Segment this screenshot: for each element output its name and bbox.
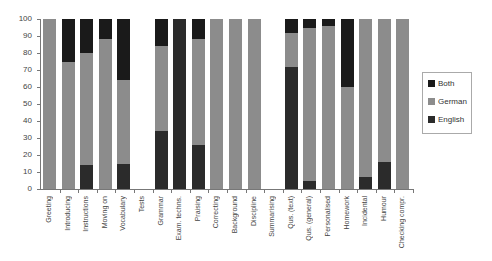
bar — [378, 19, 391, 189]
bar — [117, 19, 130, 189]
x-tick-label: Greeting — [45, 196, 52, 223]
x-tick-label: Tests — [138, 196, 145, 212]
bar-segment-both — [322, 19, 335, 26]
y-tick-label: 100 — [6, 14, 32, 23]
y-tick-label: 20 — [6, 150, 32, 159]
bar-segment-both — [341, 19, 354, 87]
bar — [210, 19, 223, 189]
bar-segment-english — [285, 67, 298, 189]
bar — [62, 19, 75, 189]
bar-segment-both — [303, 19, 316, 28]
x-tick-label: Checking compr. — [398, 196, 405, 248]
x-tick-label: Summarising — [268, 196, 275, 237]
x-tick-label: Vocabulary — [119, 196, 126, 231]
bar-segment-english — [117, 164, 130, 190]
x-tick — [208, 189, 209, 193]
x-tick-label: Exam. techns. — [175, 196, 182, 240]
x-tick-label: Instructions — [82, 196, 89, 232]
y-tick-label: 10 — [6, 167, 32, 176]
bar-segment-german — [210, 19, 223, 189]
bar-segment-english — [192, 145, 205, 189]
bar-segment-german — [155, 46, 168, 131]
bar — [192, 19, 205, 189]
x-tick — [97, 189, 98, 193]
x-tick-label: Background — [231, 196, 238, 233]
y-tick-label: 50 — [6, 99, 32, 108]
x-tick — [320, 189, 321, 193]
bar — [359, 19, 372, 189]
bar — [136, 19, 149, 189]
bar-segment-english — [303, 181, 316, 190]
bar — [43, 19, 56, 189]
bar-segment-german — [43, 19, 56, 189]
x-tick — [283, 189, 284, 193]
bar-segment-german — [322, 26, 335, 189]
bar — [99, 19, 112, 189]
legend-item-both: Both — [428, 79, 454, 88]
bar-segment-english — [80, 165, 93, 189]
bar-segment-english — [173, 19, 186, 189]
bar — [173, 19, 186, 189]
bar — [303, 19, 316, 189]
x-tick — [376, 189, 377, 193]
bar-segment-german — [396, 19, 409, 189]
bar-segment-german — [117, 80, 130, 163]
bar-segment-german — [341, 87, 354, 189]
bar — [80, 19, 93, 189]
bar — [322, 19, 335, 189]
x-tick — [60, 189, 61, 193]
bar-segment-english — [378, 162, 391, 189]
bar — [285, 19, 298, 189]
x-tick-label: Qus. (text) — [287, 196, 294, 229]
legend-label-german: German — [438, 97, 467, 106]
x-tick — [190, 189, 191, 193]
legend: Both German English — [422, 72, 472, 134]
x-tick-label: Correcting — [212, 196, 219, 228]
bar — [396, 19, 409, 189]
x-tick — [246, 189, 247, 193]
y-tick-label: 80 — [6, 48, 32, 57]
legend-swatch-english — [428, 116, 435, 123]
bar-segment-german — [378, 19, 391, 162]
x-tick — [413, 189, 414, 193]
y-tick-label: 30 — [6, 133, 32, 142]
y-tick-label: 70 — [6, 65, 32, 74]
bar-segment-german — [229, 19, 242, 189]
x-tick — [153, 189, 154, 193]
bar-segment-both — [99, 19, 112, 39]
bar-segment-both — [62, 19, 75, 62]
y-tick-label: 0 — [6, 184, 32, 193]
x-tick-label: Humour — [380, 196, 387, 221]
bar-segment-both — [192, 19, 205, 39]
x-tick-label: Praising — [194, 196, 201, 221]
bar-segment-both — [285, 19, 298, 33]
bar — [266, 19, 279, 189]
x-tick — [171, 189, 172, 193]
bar — [229, 19, 242, 189]
x-tick — [394, 189, 395, 193]
x-tick — [115, 189, 116, 193]
x-tick — [264, 189, 265, 193]
bar-segment-english — [155, 131, 168, 189]
bar-segment-german — [303, 28, 316, 181]
bar — [155, 19, 168, 189]
y-tick-label: 90 — [6, 31, 32, 40]
y-tick-label: 40 — [6, 116, 32, 125]
legend-label-english: English — [438, 115, 464, 124]
x-tick — [227, 189, 228, 193]
plot-area — [40, 19, 414, 189]
x-tick — [134, 189, 135, 193]
x-tick-label: Introducing — [64, 196, 71, 231]
x-tick-label: Moving on — [101, 196, 108, 228]
x-tick-label: Incidental — [361, 196, 368, 226]
bar-segment-english — [359, 177, 372, 189]
legend-swatch-german — [428, 98, 435, 105]
bar-segment-both — [155, 19, 168, 46]
bar-segment-german — [248, 19, 261, 189]
bar — [248, 19, 261, 189]
bar-segment-german — [80, 53, 93, 165]
bar-segment-german — [99, 39, 112, 189]
x-tick-label: Discipline — [250, 196, 257, 226]
bar — [341, 19, 354, 189]
x-tick-label: Qus. (general) — [305, 196, 312, 241]
